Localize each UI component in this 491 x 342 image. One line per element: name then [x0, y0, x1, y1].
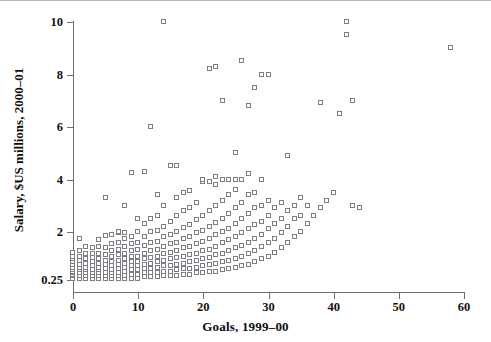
- data-point: [109, 259, 114, 264]
- data-point: [174, 267, 179, 272]
- data-point: [174, 255, 179, 260]
- data-point: [168, 256, 173, 261]
- data-point: [233, 221, 238, 226]
- data-point: [129, 254, 134, 259]
- data-point: [259, 244, 264, 249]
- data-point: [161, 224, 166, 229]
- data-point: [174, 248, 179, 253]
- data-point: [155, 192, 160, 197]
- x-tick-label: 10: [132, 300, 145, 315]
- data-point: [213, 174, 218, 179]
- data-point: [220, 229, 225, 234]
- data-point: [200, 263, 205, 268]
- data-point: [311, 213, 316, 218]
- data-point: [187, 272, 192, 277]
- data-point: [448, 45, 453, 50]
- data-point: [279, 245, 284, 250]
- y-tick-label: 4: [57, 172, 63, 187]
- data-point: [181, 254, 186, 259]
- data-point: [233, 205, 238, 210]
- x-tick-label: 0: [70, 300, 76, 315]
- data-point: [122, 230, 127, 235]
- data-point: [233, 256, 238, 261]
- data-point: [129, 259, 134, 264]
- data-point: [259, 256, 264, 261]
- data-point: [187, 266, 192, 271]
- data-point: [266, 72, 271, 77]
- data-point: [239, 58, 244, 63]
- data-point: [233, 234, 238, 239]
- data-point: [246, 262, 251, 267]
- data-point: [181, 190, 186, 195]
- data-point: [220, 98, 225, 103]
- data-point: [155, 213, 160, 218]
- data-point: [259, 203, 264, 208]
- data-point: [155, 254, 160, 259]
- data-point: [220, 259, 225, 264]
- data-point: [181, 208, 186, 213]
- data-point: [226, 192, 231, 197]
- data-point: [259, 177, 264, 182]
- data-point: [292, 203, 297, 208]
- y-tick-label: 8: [57, 67, 63, 82]
- data-point: [122, 244, 127, 249]
- data-point: [116, 229, 121, 234]
- data-point: [226, 266, 231, 271]
- data-point: [181, 236, 186, 241]
- data-point: [266, 226, 271, 231]
- data-point: [142, 243, 147, 248]
- data-point: [279, 216, 284, 221]
- data-point: [259, 219, 264, 224]
- data-point: [324, 198, 329, 203]
- data-point: [174, 163, 179, 168]
- data-point: [226, 237, 231, 242]
- data-point: [298, 229, 303, 234]
- data-point: [161, 263, 166, 268]
- data-point: [148, 124, 153, 129]
- data-point: [103, 233, 108, 238]
- data-point: [155, 228, 160, 233]
- data-point: [252, 236, 257, 241]
- data-point: [239, 200, 244, 205]
- data-point: [142, 169, 147, 174]
- data-point: [246, 192, 251, 197]
- data-point: [207, 66, 212, 71]
- x-axis-title: Goals, 1999–00: [0, 319, 491, 335]
- data-point: [187, 252, 192, 257]
- data-point: [135, 247, 140, 252]
- data-point: [129, 170, 134, 175]
- data-point: [200, 270, 205, 275]
- data-point: [122, 251, 127, 256]
- data-point: [122, 203, 127, 208]
- data-point: [142, 221, 147, 226]
- data-point: [233, 150, 238, 155]
- data-point: [187, 259, 192, 264]
- data-point: [96, 251, 101, 256]
- data-point: [181, 245, 186, 250]
- data-point: [155, 247, 160, 252]
- data-point: [142, 262, 147, 267]
- data-point: [142, 234, 147, 239]
- data-point: [161, 251, 166, 256]
- x-tick-label: 40: [327, 300, 340, 315]
- data-point: [213, 252, 218, 257]
- x-tick-mark: [464, 293, 465, 299]
- data-point: [266, 213, 271, 218]
- scatter-plot-figure: Salary, $US millions, 2000–01 0.25246810…: [0, 0, 491, 342]
- data-point: [200, 239, 205, 244]
- data-point: [207, 236, 212, 241]
- data-point: [148, 216, 153, 221]
- data-point: [194, 230, 199, 235]
- data-point: [103, 195, 108, 200]
- data-point: [226, 226, 231, 231]
- data-point: [194, 251, 199, 256]
- data-point: [259, 72, 264, 77]
- data-point: [233, 245, 238, 250]
- data-point: [350, 98, 355, 103]
- data-point: [181, 225, 186, 230]
- y-tick-label: 0.25: [41, 273, 63, 288]
- data-point: [239, 230, 244, 235]
- data-point: [181, 266, 186, 271]
- data-point: [116, 252, 121, 257]
- x-tick-mark: [399, 293, 400, 299]
